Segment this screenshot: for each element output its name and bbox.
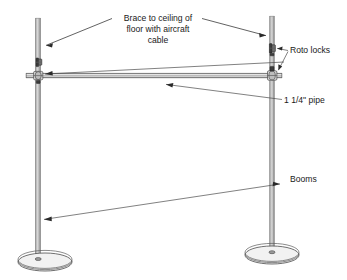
label-brace-line2: floor with aircraft <box>126 24 190 34</box>
label-booms: Booms <box>290 174 317 184</box>
right-roto-lock-fitting-upper <box>269 44 275 56</box>
label-brace-line3: cable <box>148 35 169 45</box>
leader-roto-locks-upper <box>277 47 288 51</box>
right-roto-lock-fitting-lower <box>268 66 277 80</box>
leader-pipe-size <box>166 83 282 100</box>
horizontal-cross-pipe <box>26 73 282 78</box>
label-brace-line1: Brace to ceiling of <box>124 13 193 23</box>
leader-brace-left <box>46 19 112 48</box>
diagram-canvas: Brace to ceiling of floor with aircraft … <box>0 0 347 280</box>
left-base-plate <box>18 250 72 271</box>
boom-stand-diagram: Brace to ceiling of floor with aircraft … <box>0 0 347 280</box>
label-roto-locks: Roto locks <box>290 45 330 55</box>
leader-brace-right <box>202 19 266 38</box>
label-pipe-size: 1 1/4" pipe <box>284 95 325 105</box>
right-base-plate <box>245 243 299 264</box>
leader-roto-locks-lower <box>278 52 288 71</box>
leader-booms <box>44 182 280 221</box>
left-boom-post <box>36 18 41 263</box>
